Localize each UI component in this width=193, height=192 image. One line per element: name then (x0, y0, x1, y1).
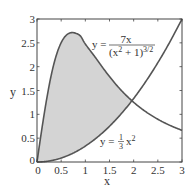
equation-label-2: y = 1 3 x2 (100, 133, 136, 151)
x-tick-label: 2.5 (151, 164, 165, 176)
chart: 00.511.522.5300.511.522.53 x y y = 7x (x… (0, 0, 193, 192)
y-tick-label: 0 (30, 154, 36, 166)
y-tick-label: 1.5 (21, 85, 35, 97)
svg-text:7x: 7x (121, 33, 133, 45)
x-tick-label: 0 (35, 164, 41, 176)
y-tick-label: 2.5 (21, 37, 35, 49)
svg-text:3: 3 (119, 142, 123, 151)
y-tick-label: 2 (30, 61, 36, 73)
y-tick-label: 0.5 (21, 132, 35, 144)
svg-text:y =: y = (92, 38, 106, 50)
x-tick-label: 3 (179, 164, 185, 176)
y-axis-label: y (10, 85, 16, 99)
x-tick-label: 2 (131, 164, 137, 176)
x-tick-label: 1 (83, 164, 89, 176)
y-tick-label: 1 (30, 108, 36, 120)
y-tick-label: 3 (30, 13, 36, 25)
x-tick-label: 0.5 (54, 164, 68, 176)
svg-text:(x2 + 1)3/2: (x2 + 1)3/2 (109, 45, 153, 59)
svg-text:y =: y = (100, 135, 114, 147)
svg-text:1: 1 (119, 133, 123, 142)
svg-text:x2: x2 (126, 134, 136, 147)
x-axis-label: x (104, 174, 110, 188)
equation-label-1: y = 7x (x2 + 1)3/2 (92, 33, 155, 59)
